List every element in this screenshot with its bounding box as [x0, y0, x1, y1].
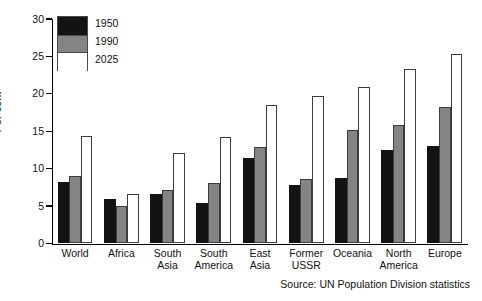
- bar-1950: [335, 178, 347, 243]
- bar-2025: [312, 96, 324, 243]
- y-tick-label-10: 10: [0, 163, 44, 174]
- bar-1950: [243, 158, 255, 243]
- bar-group: [381, 14, 416, 243]
- bar-2025: [127, 194, 139, 243]
- bar-1990: [116, 206, 128, 243]
- bar-1950: [150, 194, 162, 243]
- legend-swatch-2025: [58, 53, 87, 71]
- bar-group: [427, 14, 462, 243]
- legend-label-2025: 2025: [95, 54, 118, 65]
- bar-1990: [439, 107, 451, 243]
- chart-figure: Per cent 051015202530 WorldAfricaSouth A…: [0, 0, 482, 301]
- bar-1990: [254, 147, 266, 243]
- bar-1990: [69, 176, 81, 243]
- legend-swatch-1990: [58, 35, 87, 53]
- x-axis-line: [52, 244, 468, 245]
- plot-area: [52, 14, 468, 243]
- bar-1950: [427, 146, 439, 243]
- bar-1950: [104, 199, 116, 243]
- legend-swatch-1950: [58, 17, 87, 36]
- y-tick-label-15: 15: [0, 126, 44, 137]
- bar-1990: [208, 183, 220, 243]
- y-tick-0: [46, 243, 52, 244]
- bar-2025: [173, 153, 185, 243]
- y-tick-label-25: 25: [0, 51, 44, 62]
- bar-group: [196, 14, 231, 243]
- bar-group: [335, 14, 370, 243]
- bar-2025: [451, 54, 463, 243]
- bar-2025: [220, 137, 232, 243]
- y-tick-label-30: 30: [0, 14, 44, 25]
- bar-1950: [58, 182, 70, 243]
- bar-group: [243, 14, 278, 243]
- bar-group: [150, 14, 185, 243]
- bar-1950: [289, 185, 301, 243]
- source-note: Source: UN Population Division statistic…: [280, 279, 470, 290]
- bar-1990: [300, 179, 312, 243]
- bar-2025: [404, 69, 416, 243]
- category-label: Europe: [418, 248, 472, 260]
- bar-2025: [81, 136, 93, 243]
- bar-group: [289, 14, 324, 243]
- bar-1950: [196, 203, 208, 243]
- legend-label-1950: 1950: [95, 18, 118, 29]
- bar-2025: [266, 105, 278, 243]
- legend-label-1990: 1990: [95, 36, 118, 47]
- bar-1950: [381, 150, 393, 243]
- y-tick-label-0: 0: [0, 238, 44, 249]
- y-tick-label-5: 5: [0, 201, 44, 212]
- bar-1990: [162, 190, 174, 243]
- y-tick-label-20: 20: [0, 88, 44, 99]
- bar-2025: [358, 87, 370, 243]
- bar-group: [104, 14, 139, 243]
- legend-box: [57, 16, 88, 71]
- bar-1990: [393, 125, 405, 243]
- bar-1990: [347, 130, 359, 243]
